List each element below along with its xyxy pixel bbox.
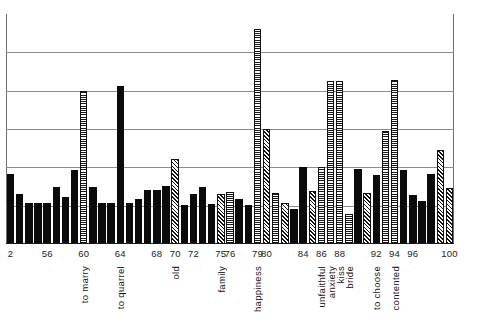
category-label: family — [216, 266, 227, 293]
bar — [71, 170, 78, 244]
bar — [25, 203, 32, 244]
bar — [391, 80, 398, 244]
bar — [281, 203, 288, 244]
bar — [327, 81, 334, 244]
bar — [437, 150, 444, 244]
bar — [217, 194, 224, 244]
x-tick-label: 86 — [316, 248, 327, 260]
bar-chart-figure: 256606468707275767980848688929496100 to … — [0, 0, 486, 327]
bar — [16, 194, 23, 244]
x-axis-tick-labels: 256606468707275767980848688929496100 — [6, 248, 454, 262]
category-label: happiness — [252, 266, 263, 312]
category-label: bride — [344, 266, 355, 289]
x-tick-label: 80 — [261, 248, 272, 260]
x-tick-label: 2 — [8, 248, 13, 260]
bar — [309, 191, 316, 244]
bar — [181, 205, 188, 244]
bar — [235, 199, 242, 244]
x-tick-label: 94 — [389, 248, 400, 260]
category-label: contented — [390, 266, 401, 310]
bar — [107, 203, 114, 244]
bar — [382, 131, 389, 244]
bar — [34, 203, 41, 244]
bar — [62, 197, 69, 244]
x-tick-label: 70 — [170, 248, 181, 260]
bar — [43, 203, 50, 244]
bar — [199, 187, 206, 244]
category-label: to quarrel — [115, 266, 126, 309]
bar — [373, 175, 380, 244]
x-axis-line — [6, 243, 454, 244]
x-tick-label: 96 — [407, 248, 418, 260]
bar — [427, 174, 434, 244]
bar — [345, 214, 352, 244]
bar — [290, 209, 297, 244]
bar — [53, 187, 60, 244]
bar — [418, 201, 425, 244]
category-annotations: to marryto quarreloldfamilyhappinessunfa… — [6, 266, 454, 327]
category-label: to choose — [371, 266, 382, 310]
bar — [318, 167, 325, 244]
bar — [117, 86, 124, 244]
bar — [400, 170, 407, 244]
category-label: old — [170, 266, 181, 280]
bar — [245, 205, 252, 244]
x-tick-label: 68 — [151, 248, 162, 260]
bar — [336, 81, 343, 244]
bar — [208, 204, 215, 244]
bar — [126, 203, 133, 244]
bars-group — [6, 14, 454, 244]
plot-area — [6, 14, 454, 244]
x-tick-label: 100 — [441, 248, 457, 260]
x-tick-label: 88 — [334, 248, 345, 260]
x-tick-label: 76 — [225, 248, 236, 260]
bar — [226, 192, 233, 244]
category-label: to marry — [79, 266, 90, 303]
bar — [135, 199, 142, 244]
bar — [171, 159, 178, 244]
bar — [89, 187, 96, 244]
bar — [263, 129, 270, 244]
bar — [98, 203, 105, 244]
x-tick-label: 56 — [42, 248, 53, 260]
x-tick-label: 60 — [78, 248, 89, 260]
bar — [153, 190, 160, 244]
bar — [254, 29, 261, 244]
bar — [446, 188, 453, 244]
bar — [354, 169, 361, 244]
bar — [299, 167, 306, 244]
x-tick-label: 84 — [298, 248, 309, 260]
bar — [80, 91, 87, 244]
bar — [162, 186, 169, 244]
x-tick-label: 64 — [115, 248, 126, 260]
bar — [409, 195, 416, 244]
bar — [144, 190, 151, 244]
x-tick-label: 92 — [371, 248, 382, 260]
bar — [7, 174, 14, 244]
x-tick-label: 72 — [188, 248, 199, 260]
bar — [363, 193, 370, 244]
bar — [272, 193, 279, 244]
bar — [190, 194, 197, 244]
